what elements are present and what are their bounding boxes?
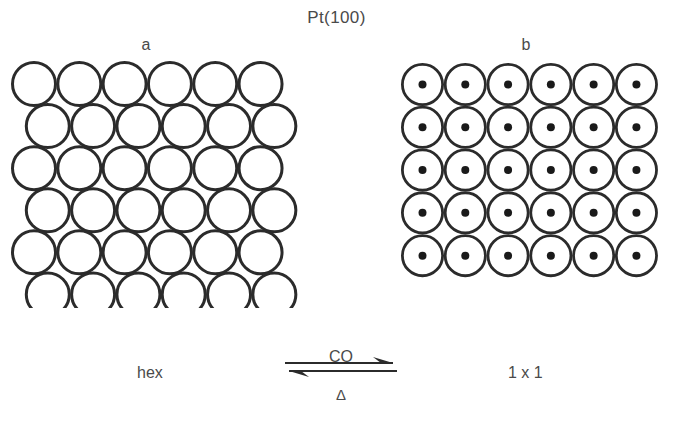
hex-atom-circle <box>103 63 146 106</box>
square-atom-center-dot <box>590 123 598 131</box>
hex-lattice-svg <box>8 58 328 308</box>
square-atom-center-dot <box>504 252 512 260</box>
square-atom-center-dot <box>504 166 512 174</box>
square-atom-center-dot <box>461 166 469 174</box>
square-atom-center-dot <box>547 123 555 131</box>
phase-label-hex: hex <box>137 364 163 382</box>
square-atom-center-dot <box>461 123 469 131</box>
square-atom-center-dot <box>590 166 598 174</box>
hex-atom-circle <box>162 105 205 148</box>
hex-atom-circle <box>239 63 282 106</box>
hex-atom-circle <box>208 273 251 308</box>
hex-atom-circle <box>253 273 296 308</box>
hex-atom-circle <box>117 105 160 148</box>
phase-label-one-by-one: 1 x 1 <box>508 364 543 382</box>
hex-atom-circle <box>194 231 237 274</box>
square-atom-center-dot <box>504 81 512 89</box>
square-atom-center-dot <box>547 81 555 89</box>
square-atom-center-dot <box>590 209 598 217</box>
hex-atom-circle <box>58 231 101 274</box>
square-atom-center-dot <box>547 252 555 260</box>
hex-atom-circle <box>13 63 56 106</box>
hex-atom-circle <box>194 63 237 106</box>
hex-atom-circle <box>13 231 56 274</box>
hex-lattice-diagram <box>8 58 328 308</box>
figure-root: Pt(100) a b hex 1 x 1 CO Δ <box>0 0 673 422</box>
hex-atom-circle <box>208 105 251 148</box>
panel-label-a: a <box>131 36 161 54</box>
hex-atom-circle <box>117 273 160 308</box>
square-atom-center-dot <box>504 123 512 131</box>
reversible-reaction-arrow-icon <box>281 346 401 388</box>
hex-atom-circle <box>148 63 191 106</box>
square-atom-center-dot <box>632 209 640 217</box>
reaction-arrow-svg <box>281 346 401 388</box>
hex-atom-circle <box>58 63 101 106</box>
hex-atom-circle <box>162 189 205 232</box>
square-atom-center-dot <box>632 166 640 174</box>
square-atom-center-dot <box>590 81 598 89</box>
hex-atom-circle <box>239 231 282 274</box>
panel-label-b: b <box>511 36 541 54</box>
square-atom-center-dot <box>461 81 469 89</box>
hex-atom-circle <box>58 147 101 190</box>
square-atom-center-dot <box>504 209 512 217</box>
square-atom-center-dot <box>590 252 598 260</box>
hex-atom-circle <box>148 147 191 190</box>
hex-atom-circle <box>26 105 69 148</box>
square-atom-center-dot <box>419 81 427 89</box>
hex-atom-circle <box>13 147 56 190</box>
hex-atom-circle <box>162 273 205 308</box>
square-lattice-svg <box>398 60 668 305</box>
square-atom-center-dot <box>419 252 427 260</box>
hex-atom-circle <box>117 189 160 232</box>
square-atom-center-dot <box>461 209 469 217</box>
square-atom-center-dot <box>419 123 427 131</box>
reaction-reverse-label: Δ <box>281 386 401 403</box>
square-atom-center-dot <box>547 166 555 174</box>
hex-atom-circle <box>72 189 115 232</box>
square-atom-center-dot <box>419 166 427 174</box>
square-lattice-diagram <box>398 60 668 305</box>
hex-atom-circle <box>103 147 146 190</box>
hex-atom-circle <box>26 273 69 308</box>
square-atom-center-dot <box>632 123 640 131</box>
hex-atom-circle <box>72 105 115 148</box>
hex-atom-circle <box>26 189 69 232</box>
hex-atom-circle <box>253 105 296 148</box>
hex-atom-circle <box>148 231 191 274</box>
hex-atom-circle <box>253 189 296 232</box>
square-atom-center-dot <box>547 209 555 217</box>
figure-title: Pt(100) <box>0 8 673 28</box>
hex-atom-circle <box>194 147 237 190</box>
hex-atom-circle <box>208 189 251 232</box>
hex-atom-circle <box>103 231 146 274</box>
square-atom-center-dot <box>461 252 469 260</box>
square-atom-center-dot <box>419 209 427 217</box>
square-atom-center-dot <box>632 252 640 260</box>
hex-atom-circle <box>239 147 282 190</box>
square-atom-center-dot <box>632 81 640 89</box>
hex-atom-circle <box>72 273 115 308</box>
